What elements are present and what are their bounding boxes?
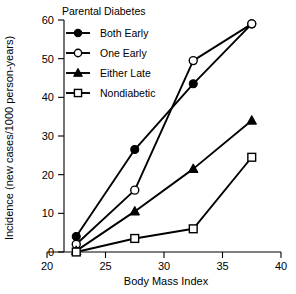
x-tick-label-25: 25 xyxy=(99,260,111,272)
x-axis-tick-labels: 2025303540 xyxy=(41,260,287,272)
x-tick-label-40: 40 xyxy=(275,260,287,272)
legend-item-either-late[interactable]: Either Late xyxy=(66,67,151,79)
legend: Parental Diabetes Both EarlyOne EarlyEit… xyxy=(62,5,155,99)
series-line xyxy=(76,121,252,251)
legend-item-label: Both Early xyxy=(100,27,149,39)
data-point-marker xyxy=(72,248,80,256)
x-tick-label-20: 20 xyxy=(41,260,53,272)
data-point-marker xyxy=(72,233,80,241)
y-tick-label-30: 30 xyxy=(42,130,54,142)
legend-item-both-early[interactable]: Both Early xyxy=(66,27,149,39)
y-axis-ticks xyxy=(58,20,64,252)
series-nondiabetic xyxy=(72,153,255,256)
legend-item-label: Nondiabetic xyxy=(100,87,155,99)
legend-entries: Both EarlyOne EarlyEither LateNondiabeti… xyxy=(66,27,155,99)
data-point-marker xyxy=(189,225,197,233)
y-tick-label-40: 40 xyxy=(42,91,54,103)
data-point-marker xyxy=(189,80,197,88)
y-axis-title: Incidence (new cases/1000 person-years) xyxy=(3,36,15,240)
data-point-marker xyxy=(248,153,256,161)
y-tick-label-50: 50 xyxy=(42,53,54,65)
x-tick-label-35: 35 xyxy=(216,260,228,272)
series-line xyxy=(76,157,252,252)
legend-marker-filled-circle-icon xyxy=(74,29,81,36)
axis-lines xyxy=(47,20,281,252)
legend-item-label: One Early xyxy=(100,47,147,59)
data-point-marker xyxy=(130,206,140,215)
data-point-marker xyxy=(247,116,257,125)
data-point-marker xyxy=(189,57,197,65)
y-axis-tick-labels: 0102030405060 xyxy=(42,14,54,258)
legend-marker-open-square-icon xyxy=(74,89,81,96)
y-tick-label-10: 10 xyxy=(42,207,54,219)
incidence-vs-bmi-line-chart: 2025303540 0102030405060 Body Mass Index… xyxy=(0,0,296,294)
x-axis-ticks xyxy=(47,252,281,258)
y-tick-label-60: 60 xyxy=(42,14,54,26)
x-axis-title: Body Mass Index xyxy=(124,275,209,287)
legend-item-one-early[interactable]: One Early xyxy=(66,47,147,59)
legend-item-nondiabetic[interactable]: Nondiabetic xyxy=(66,87,155,99)
data-point-marker xyxy=(131,186,139,194)
x-tick-label-30: 30 xyxy=(158,260,170,272)
data-point-marker xyxy=(131,235,139,243)
chart-container: 2025303540 0102030405060 Body Mass Index… xyxy=(0,0,296,294)
data-point-marker xyxy=(131,146,139,154)
data-point-marker xyxy=(248,20,256,28)
legend-item-label: Either Late xyxy=(100,67,151,79)
y-tick-label-0: 0 xyxy=(48,246,54,258)
y-tick-label-20: 20 xyxy=(42,169,54,181)
legend-marker-open-circle-icon xyxy=(74,49,81,56)
legend-title: Parental Diabetes xyxy=(62,5,145,17)
